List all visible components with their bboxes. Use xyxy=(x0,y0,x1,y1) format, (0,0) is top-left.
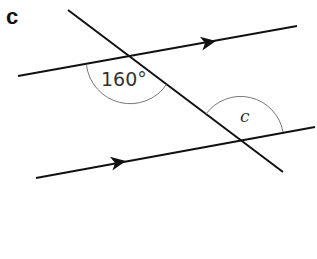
part-label: c xyxy=(6,4,18,30)
angle-diagram xyxy=(0,0,317,259)
diagram-canvas: c 160° c xyxy=(0,0,317,259)
top-parallel-line xyxy=(18,26,297,76)
bottom-parallel-line xyxy=(36,127,315,178)
angle-label-c: c xyxy=(240,106,250,126)
angle-label-160: 160° xyxy=(101,68,147,90)
